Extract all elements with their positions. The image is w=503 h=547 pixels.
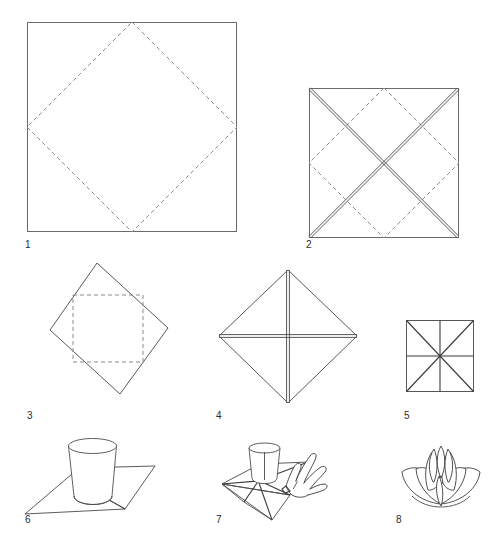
- solid-diamond-outline: [50, 263, 168, 394]
- step-label-3: 3: [27, 411, 33, 421]
- outer-square-outline: [28, 23, 237, 232]
- step-label-2: 2: [306, 240, 312, 250]
- step-label-7: 7: [216, 515, 222, 525]
- step-6-figure: [22, 436, 167, 522]
- solid-diamond-outline: [219, 270, 357, 403]
- step-8-drawing: [398, 438, 484, 514]
- step-label-6: 6: [25, 515, 31, 525]
- step-7-drawing: [216, 440, 341, 526]
- step-label-1: 1: [25, 240, 31, 250]
- glass-rim: [249, 443, 280, 453]
- step-5-drawing: [406, 320, 474, 392]
- outer-square-outline: [310, 89, 459, 238]
- step-2-drawing: [309, 88, 459, 238]
- glass-rim: [69, 439, 117, 454]
- step-label-5: 5: [404, 411, 410, 421]
- dashed-inner-square-fold-lines: [73, 295, 143, 362]
- step-label-8: 8: [396, 515, 402, 525]
- step-5-figure: [406, 320, 474, 392]
- step-2-figure: [309, 88, 459, 238]
- step-4-drawing: [218, 269, 358, 404]
- step-1-drawing: [27, 22, 237, 237]
- hand: [282, 453, 327, 497]
- double-line-diagonals: [309, 88, 459, 238]
- dashed-diamond-fold-lines: [27, 22, 237, 232]
- horizontal-crease: [219, 335, 357, 338]
- instruction-sheet: 1 2 3: [0, 0, 503, 547]
- step-3-drawing: [49, 262, 169, 396]
- glass-body: [69, 446, 117, 505]
- step-1-figure: [27, 22, 237, 237]
- step-6-drawing: [22, 436, 167, 522]
- vertical-crease: [287, 270, 290, 403]
- perspective-lower-diamond: [222, 484, 290, 520]
- step-8-figure: [398, 438, 484, 514]
- step-label-4: 4: [216, 411, 222, 421]
- step-4-figure: [218, 269, 358, 404]
- step-3-figure: [49, 262, 169, 396]
- top-centre-petals: [429, 446, 452, 482]
- step-7-figure: [216, 440, 341, 526]
- dashed-diamond-fold-lines: [309, 88, 459, 238]
